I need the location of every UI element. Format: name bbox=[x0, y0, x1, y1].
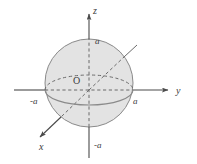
sphere-diagram-canvas: z y x O a -a a -a bbox=[0, 0, 197, 164]
z-positive-tick-label: a bbox=[95, 36, 100, 46]
sphere-diagram-figure: z y x O a -a a -a bbox=[0, 0, 197, 164]
y-axis-label: y bbox=[175, 85, 181, 96]
z-negative-tick-label: -a bbox=[94, 140, 102, 150]
x-axis-label: x bbox=[38, 141, 44, 152]
origin-label: O bbox=[73, 75, 80, 86]
x-axis-negative-segment bbox=[124, 45, 137, 57]
y-positive-tick-label: a bbox=[133, 96, 138, 106]
y-negative-tick-label: -a bbox=[30, 96, 38, 106]
z-axis-label: z bbox=[92, 5, 97, 16]
x-axis-positive-segment bbox=[40, 117, 61, 137]
